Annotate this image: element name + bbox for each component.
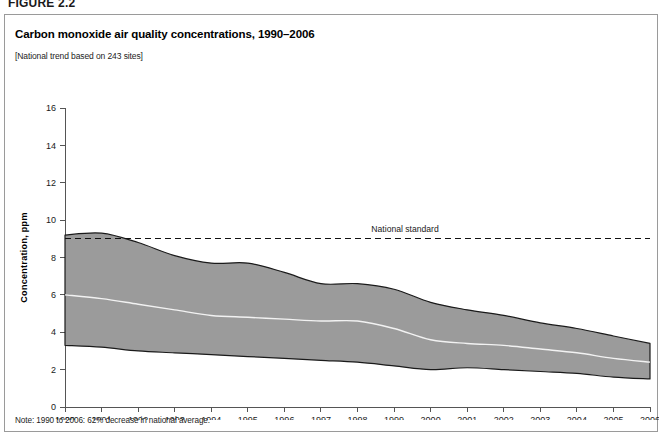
- chart-title: Carbon monoxide air quality concentratio…: [15, 28, 315, 40]
- co-concentration-area-chart: 0246810121416 19901991199219931994199519…: [5, 75, 659, 420]
- x-tick-label: 2003: [530, 415, 550, 420]
- x-tick-label: 1996: [274, 415, 294, 420]
- y-tick-label: 10: [46, 215, 56, 225]
- y-tick-label: 6: [51, 290, 56, 300]
- y-tick-label: 12: [46, 178, 56, 188]
- figure-panel: Carbon monoxide air quality concentratio…: [4, 14, 658, 432]
- y-tick-label: 0: [51, 402, 56, 412]
- y-axis-ticks: 0246810121416: [46, 103, 65, 412]
- x-tick-label: 2004: [567, 415, 587, 420]
- x-tick-label: 1997: [311, 415, 331, 420]
- x-tick-label: 2006: [640, 415, 659, 420]
- figure-root: FIGURE 2.2 Carbon monoxide air quality c…: [0, 0, 664, 438]
- y-tick-label: 14: [46, 141, 56, 151]
- y-axis-label: Concentration, ppm: [19, 212, 29, 302]
- x-tick-label: 2005: [603, 415, 623, 420]
- x-tick-label: 2002: [494, 415, 514, 420]
- plot-area: 0246810121416 19901991199219931994199519…: [5, 75, 659, 420]
- x-tick-label: 2001: [457, 415, 477, 420]
- x-tick-label: 2000: [421, 415, 441, 420]
- x-tick-label: 1998: [347, 415, 367, 420]
- y-tick-label: 8: [51, 253, 56, 263]
- y-tick-label: 2: [51, 365, 56, 375]
- chart-subtitle: [National trend based on 243 sites]: [15, 51, 143, 61]
- x-tick-label: 1999: [384, 415, 404, 420]
- y-tick-label: 4: [51, 327, 56, 337]
- figure-number-label: FIGURE 2.2: [8, 0, 75, 10]
- y-tick-label: 16: [46, 103, 56, 113]
- national-standard-label: National standard: [371, 224, 439, 234]
- figure-note: Note: 1990 to 2006: 62% decrease in nati…: [15, 416, 210, 425]
- x-tick-label: 1995: [238, 415, 258, 420]
